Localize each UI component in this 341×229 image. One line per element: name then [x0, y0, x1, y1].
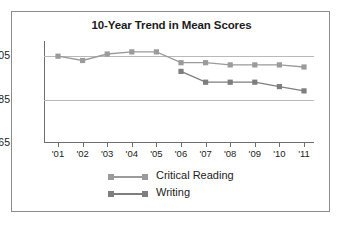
- series-marker: [129, 49, 134, 54]
- series-marker: [80, 58, 85, 63]
- x-tick-mark: [230, 143, 231, 147]
- series-marker: [228, 62, 233, 67]
- series-marker: [105, 51, 110, 56]
- legend-item[interactable]: Critical Reading: [108, 169, 308, 186]
- x-tick-mark: [304, 143, 305, 147]
- legend-label: Critical Reading: [156, 169, 234, 181]
- x-tick-mark: [83, 143, 84, 147]
- y-tick-label: 465: [0, 136, 10, 148]
- x-tick-mark: [279, 143, 280, 147]
- series-marker: [301, 64, 306, 69]
- plot-area: 465485505 '01'02'03'04'05'06'07'08'09'10…: [44, 41, 314, 143]
- series-line: [181, 71, 304, 91]
- series-lines: [44, 41, 314, 143]
- series-marker: [228, 80, 233, 85]
- x-tick-mark: [255, 143, 256, 147]
- chart-figure: 10-Year Trend in Mean Scores 465485505 '…: [11, 11, 330, 212]
- x-tick-label: '11: [289, 148, 319, 159]
- series-marker: [154, 49, 159, 54]
- series-marker: [178, 69, 183, 74]
- legend-marker-icon: [108, 174, 114, 180]
- y-tick-label: 505: [0, 49, 10, 61]
- legend-marker-icon: [142, 174, 148, 180]
- y-tick-label: 485: [0, 93, 10, 105]
- chart-title: 10-Year Trend in Mean Scores: [12, 19, 331, 31]
- legend-item[interactable]: Writing: [108, 186, 308, 203]
- series-marker: [55, 54, 60, 59]
- series-marker: [203, 80, 208, 85]
- legend-line-swatch: [108, 193, 148, 195]
- series-marker: [277, 62, 282, 67]
- series-marker: [301, 88, 306, 93]
- legend-marker-icon: [108, 191, 114, 197]
- chart-legend: Critical ReadingWriting: [108, 169, 308, 203]
- x-tick-mark: [132, 143, 133, 147]
- x-tick-mark: [181, 143, 182, 147]
- legend-marker-icon: [142, 191, 148, 197]
- x-tick-mark: [107, 143, 108, 147]
- legend-label: Writing: [156, 186, 190, 198]
- x-tick-mark: [206, 143, 207, 147]
- series-marker: [178, 60, 183, 65]
- series-marker: [203, 60, 208, 65]
- x-tick-mark: [156, 143, 157, 147]
- series-marker: [277, 84, 282, 89]
- series-marker: [252, 80, 257, 85]
- series-marker: [252, 62, 257, 67]
- legend-line-swatch: [108, 176, 148, 178]
- x-tick-mark: [58, 143, 59, 147]
